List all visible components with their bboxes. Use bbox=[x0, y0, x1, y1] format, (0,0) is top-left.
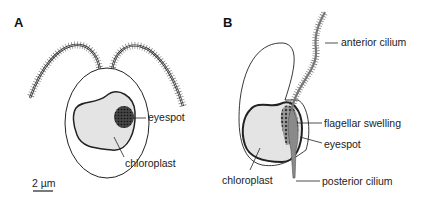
panel-b: B anterior cilium flagellar swelling eye… bbox=[222, 12, 407, 187]
scale-bar-label: 2 µm bbox=[32, 177, 56, 189]
label-anterior-cilium: anterior cilium bbox=[341, 36, 407, 48]
label-chloroplast-a: chloroplast bbox=[125, 157, 176, 169]
anterior-cilium bbox=[292, 12, 325, 108]
panel-b-label: B bbox=[223, 15, 232, 30]
panel-a: A eyespot chloroplast 2 µm bbox=[14, 15, 185, 191]
label-eyespot-a: eyespot bbox=[148, 111, 185, 123]
panel-a-label: A bbox=[14, 15, 24, 30]
eyespot-a bbox=[114, 106, 134, 128]
diagram: A eyespot chloroplast 2 µm B bbox=[0, 0, 426, 201]
label-eyespot-b: eyespot bbox=[324, 138, 361, 150]
label-posterior-cilium: posterior cilium bbox=[322, 175, 393, 187]
label-chloroplast-b: chloroplast bbox=[222, 174, 273, 186]
label-flagellar-swelling: flagellar swelling bbox=[324, 117, 401, 129]
